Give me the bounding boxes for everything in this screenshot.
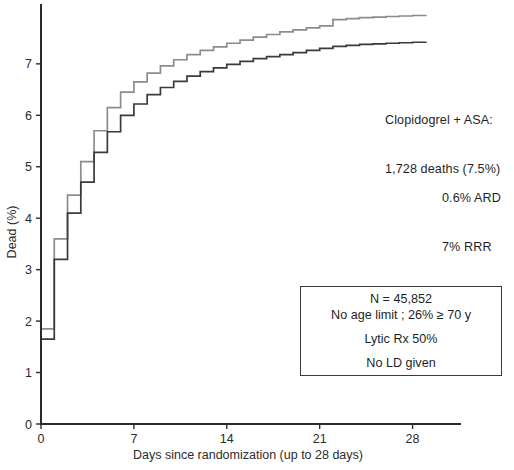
x-tick-label-7: 7	[130, 432, 137, 446]
x-tick-label-28: 28	[406, 432, 420, 446]
y-axis-title: Dead (%)	[5, 206, 19, 259]
annotation-rrr: 7% RRR	[442, 239, 501, 255]
x-axis-title: Days since randomization (up to 28 days)	[133, 448, 363, 462]
annotation-treatment-line1: Clopidogrel + ASA:	[385, 112, 500, 128]
chart-canvas: 0123456707142128 Days since randomizatio…	[0, 0, 514, 470]
y-tick-label-5: 5	[25, 160, 32, 174]
x-tick-label-21: 21	[313, 432, 327, 446]
ticks-group: 0123456707142128	[25, 57, 420, 446]
y-tick-label-3: 3	[25, 263, 32, 277]
y-tick-label-1: 1	[25, 366, 32, 380]
trial-box-lytic: Lytic Rx 50%	[364, 331, 437, 348]
y-tick-label-7: 7	[25, 57, 32, 71]
trial-box-n: N = 45,852	[370, 291, 432, 308]
y-tick-label-4: 4	[25, 212, 32, 226]
trial-characteristics-box: N = 45,852 No age limit ; 26% ≥ 70 y Lyt…	[300, 286, 502, 376]
trial-box-age: No age limit ; 26% ≥ 70 y	[331, 307, 471, 324]
y-tick-label-0: 0	[25, 418, 32, 432]
kaplan-meier-figure: 0123456707142128 Days since randomizatio…	[0, 0, 514, 470]
y-tick-label-6: 6	[25, 109, 32, 123]
annotation-ard: 0.6% ARD	[442, 190, 501, 206]
y-tick-label-2: 2	[25, 315, 32, 329]
x-tick-label-14: 14	[220, 432, 234, 446]
x-tick-label-0: 0	[38, 432, 45, 446]
trial-box-loading-dose: No LD given	[366, 355, 435, 372]
